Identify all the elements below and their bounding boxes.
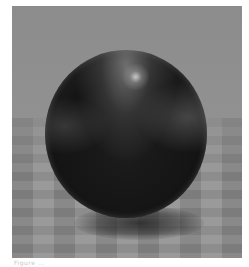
dark-sphere bbox=[45, 50, 207, 218]
render-image bbox=[12, 6, 242, 258]
caption: Figure ... bbox=[14, 259, 45, 267]
